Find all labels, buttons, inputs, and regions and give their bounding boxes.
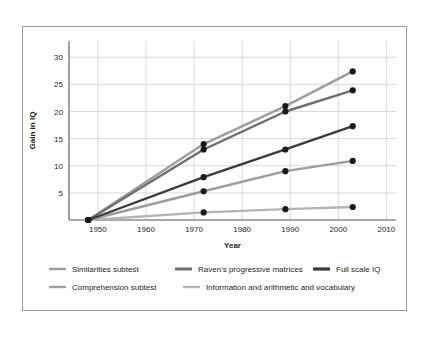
legend-label: Raven's progressive matrices: [198, 265, 303, 274]
data-point-marker: [282, 103, 288, 109]
y-axis-tick-label: 20: [54, 108, 63, 117]
data-point-marker: [201, 188, 207, 194]
legend-label: Full scale IQ: [336, 265, 380, 274]
data-point-marker: [350, 158, 356, 164]
data-point-marker: [350, 204, 356, 210]
y-axis-tick-label: 5: [59, 189, 64, 198]
iq-gain-line-chart: 510152025301950196019701980199020002010G…: [23, 27, 406, 310]
data-point-marker: [201, 141, 207, 147]
series-line: [88, 90, 352, 220]
y-axis-tick-label: 10: [54, 162, 63, 171]
x-axis-tick-label: 1960: [137, 225, 155, 234]
legend-label: Similarities subtest: [72, 265, 139, 274]
data-point-marker: [201, 174, 207, 180]
x-axis-tick-label: 1990: [281, 225, 299, 234]
y-axis-title: Gain in IQ: [28, 112, 37, 150]
data-point-marker: [350, 68, 356, 74]
y-axis-tick-label: 25: [54, 80, 63, 89]
x-axis-tick-label: 2000: [329, 225, 347, 234]
y-axis-tick-label: 15: [54, 135, 63, 144]
x-axis-tick-label: 2010: [377, 225, 395, 234]
data-point-marker: [350, 123, 356, 129]
data-point-marker: [282, 146, 288, 152]
chart-figure-frame: 510152025301950196019701980199020002010G…: [22, 26, 407, 311]
data-point-marker: [201, 146, 207, 152]
legend-label: Information and arithmetic and vocabular…: [206, 283, 355, 292]
data-point-marker: [350, 87, 356, 93]
data-point-marker: [85, 217, 91, 223]
legend-label: Comprehension subtest: [72, 283, 157, 292]
y-axis-tick-label: 30: [54, 53, 63, 62]
x-axis-tick-label: 1970: [185, 225, 203, 234]
data-point-marker: [282, 168, 288, 174]
x-axis-title: Year: [224, 241, 241, 250]
x-axis-tick-label: 1950: [89, 225, 107, 234]
series-line: [88, 126, 352, 220]
data-point-marker: [282, 108, 288, 114]
data-point-marker: [201, 209, 207, 215]
series-line: [88, 71, 352, 220]
x-axis-tick-label: 1980: [233, 225, 251, 234]
data-point-marker: [282, 206, 288, 212]
